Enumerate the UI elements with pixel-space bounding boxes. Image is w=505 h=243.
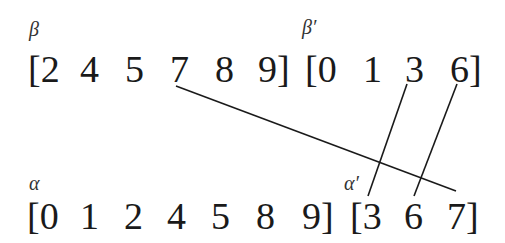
link-7-line (176, 86, 456, 191)
beta-item: 8 (215, 50, 234, 88)
alpha-item: 8 (256, 197, 275, 235)
connector-lines (0, 0, 505, 243)
alpha-prime-item: 7] (447, 197, 479, 235)
alpha-item: [0 (27, 197, 59, 235)
beta-prime-item: [0 (305, 50, 337, 88)
link-3-line (368, 84, 407, 196)
alpha-item: 4 (167, 197, 186, 235)
beta-item: 5 (125, 50, 144, 88)
alpha-item: 2 (124, 197, 143, 235)
beta-prime-item: 3 (405, 50, 424, 88)
alpha-prime-label: α′ (344, 172, 359, 195)
beta-prime-label: β′ (302, 16, 316, 39)
beta-item: 4 (80, 50, 99, 88)
link-6-line (414, 84, 457, 196)
alpha-prime-item: 6 (404, 197, 423, 235)
beta-label: β (29, 18, 39, 41)
alpha-item: 9] (302, 197, 334, 235)
beta-item: [2 (28, 50, 60, 88)
beta-prime-item: 1 (363, 50, 382, 88)
alpha-label: α (29, 172, 40, 195)
beta-prime-item: 6] (450, 50, 482, 88)
alpha-prime-item: [3 (350, 197, 382, 235)
alpha-item: 5 (211, 197, 230, 235)
beta-item: 9] (258, 50, 290, 88)
alpha-item: 1 (80, 197, 99, 235)
beta-item: 7 (170, 50, 189, 88)
